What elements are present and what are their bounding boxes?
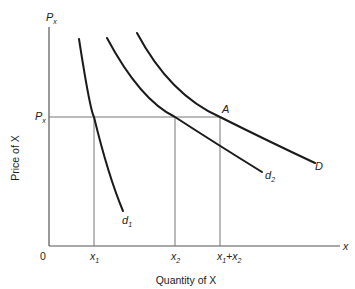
y-axis-title: Price of X — [9, 135, 21, 181]
origin-label: 0 — [40, 250, 46, 262]
price-level-label: Px — [35, 110, 46, 124]
label-d1: d1 — [122, 214, 132, 228]
y-axis-top-label: Px — [46, 11, 57, 25]
label-d2: d2 — [265, 169, 275, 183]
curve-d2 — [107, 38, 262, 172]
point-A-label: A — [221, 103, 229, 115]
tick-x1-plus-x2: x1+x2 — [216, 250, 242, 264]
x-axis-end-label: x — [342, 240, 349, 252]
curve-d1 — [79, 39, 123, 211]
tick-x1: x1 — [89, 250, 99, 264]
demand-diagram: Px Px Price of X 0 x1 x2 x1+x2 x Quantit… — [0, 0, 355, 289]
tick-x2: x2 — [170, 250, 180, 264]
label-D: D — [315, 160, 323, 172]
x-axis-title: Quantity of X — [156, 274, 217, 286]
curve-D — [137, 33, 315, 163]
